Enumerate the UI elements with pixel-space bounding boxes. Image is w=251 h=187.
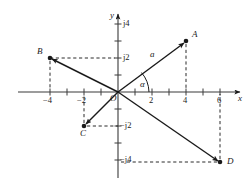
y-tick-label-j4: j4: [123, 19, 130, 28]
vector-label-a: a: [150, 50, 155, 59]
vector-OB: [52, 59, 118, 92]
vector-OD: [118, 92, 218, 161]
point-label-C: C: [80, 129, 86, 138]
point-D: [218, 160, 223, 165]
x-axis-label: x: [238, 94, 242, 103]
angle-label-alpha: α: [140, 80, 145, 89]
point-A: [184, 39, 189, 44]
x-tick-label-neg4: −4: [43, 96, 52, 105]
x-tick-label-neg2: −2: [77, 96, 86, 105]
y-axis-label: y: [110, 11, 114, 20]
point-B: [48, 56, 53, 61]
point-label-B: B: [37, 47, 43, 56]
point-label-D: D: [227, 157, 234, 166]
argand-diagram-figure: y x O −4 −2 2 4 6 j4 j2 −j2 −j4 A B C D …: [0, 0, 251, 187]
x-tick-label-2: 2: [149, 96, 153, 105]
point-label-A: A: [192, 30, 198, 39]
y-tick-label-negj4: −j4: [120, 155, 131, 164]
x-tick-label-4: 4: [183, 96, 187, 105]
x-tick-label-6: 6: [217, 96, 221, 105]
origin-label: O: [110, 94, 117, 103]
y-tick-label-j2: j2: [123, 53, 130, 62]
y-tick-label-negj2: −j2: [120, 121, 131, 130]
